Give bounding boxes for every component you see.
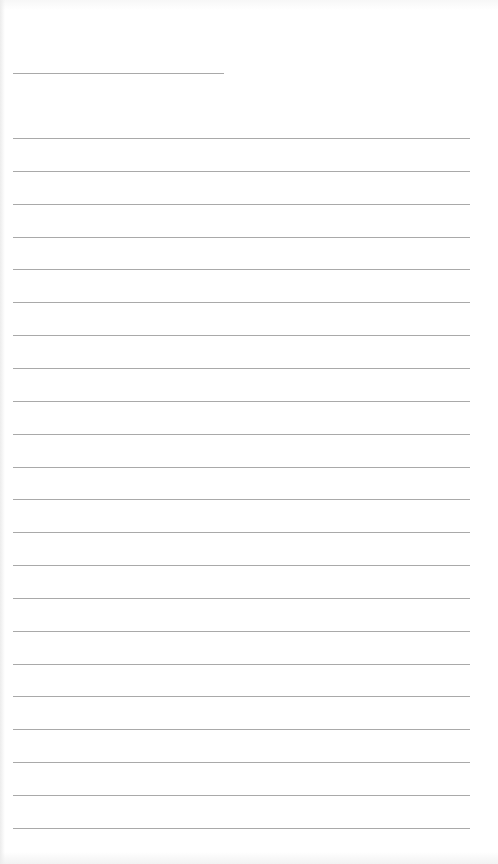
ruled-line xyxy=(13,401,470,402)
ruled-line xyxy=(13,729,470,730)
ruled-line xyxy=(13,302,470,303)
ruled-line xyxy=(13,237,470,238)
ruled-line xyxy=(13,762,470,763)
ruled-line xyxy=(13,269,470,270)
ruled-line xyxy=(13,335,470,336)
ruled-line xyxy=(13,565,470,566)
ruled-line xyxy=(13,368,470,369)
title-line xyxy=(13,73,224,74)
ruled-line xyxy=(13,499,470,500)
paper-edge-shadow xyxy=(0,0,5,864)
ruled-line xyxy=(13,828,470,829)
ruled-line xyxy=(13,631,470,632)
ruled-line xyxy=(13,598,470,599)
ruled-line xyxy=(13,696,470,697)
ruled-line xyxy=(13,467,470,468)
ruled-line xyxy=(13,434,470,435)
ruled-line xyxy=(13,795,470,796)
lined-paper-sheet xyxy=(0,0,498,864)
ruled-line xyxy=(13,664,470,665)
ruled-line xyxy=(13,532,470,533)
ruled-line xyxy=(13,171,470,172)
ruled-line xyxy=(13,204,470,205)
ruled-line xyxy=(13,138,470,139)
